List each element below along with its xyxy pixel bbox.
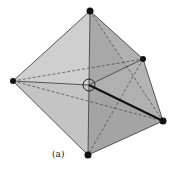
vertex-bottom — [85, 152, 92, 159]
vertex-left — [10, 78, 16, 84]
octahedron-diagram: (a) — [0, 0, 178, 175]
figure-label: (a) — [52, 149, 64, 159]
vertex-lower-right — [160, 118, 167, 125]
face-left-upper — [13, 11, 90, 85]
vertex-top — [87, 8, 94, 15]
vertex-upper-right — [140, 56, 146, 62]
